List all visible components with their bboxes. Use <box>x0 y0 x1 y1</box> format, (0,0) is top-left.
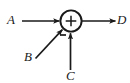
signal-label-b: B <box>24 50 32 63</box>
signal-label-c: C <box>66 69 75 82</box>
block-diagram-figure: A B C D <box>0 0 130 83</box>
signal-line-b <box>36 30 63 59</box>
diagram-canvas <box>0 0 130 83</box>
signal-label-a: A <box>7 13 15 26</box>
signal-label-d: D <box>117 13 126 26</box>
